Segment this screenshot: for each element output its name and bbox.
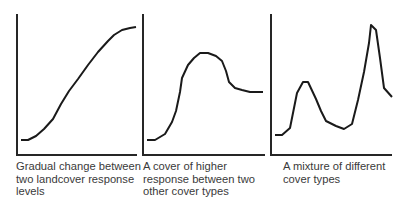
response-curve — [147, 53, 263, 140]
caption-higher-response: A cover of higher response between two o… — [143, 160, 269, 198]
panel-higher-response — [143, 14, 265, 155]
panel-mixture — [271, 14, 392, 155]
panel-gradual-change — [17, 14, 137, 155]
caption-mixture: A mixture of different cover types — [283, 160, 403, 185]
axes — [17, 14, 137, 155]
axes — [271, 14, 392, 155]
axes — [143, 14, 265, 155]
response-curve — [21, 27, 136, 140]
response-curve — [275, 25, 392, 135]
caption-gradual-change: Gradual change between two landcover res… — [16, 160, 142, 198]
